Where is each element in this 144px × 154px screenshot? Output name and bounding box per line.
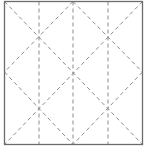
crease-pattern-diagram bbox=[0, 0, 144, 154]
crease-lines bbox=[5, 2, 143, 145]
